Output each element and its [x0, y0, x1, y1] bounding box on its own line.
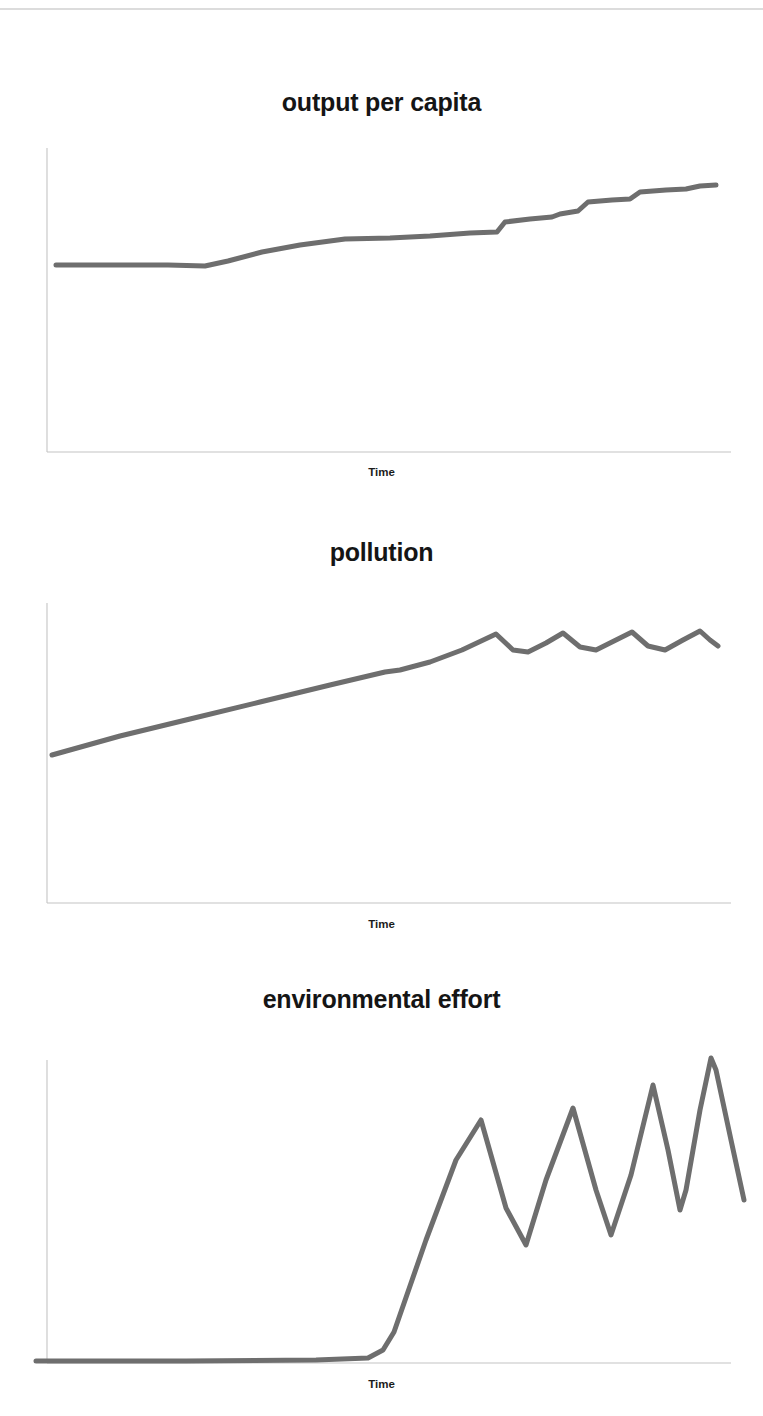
x-axis-label-pollution: Time	[0, 918, 763, 930]
chart-svg-pollution	[0, 500, 763, 960]
plot-area-output-per-capita	[0, 0, 763, 500]
chart-panel-pollution: pollution Time	[0, 500, 763, 960]
chart-svg-environmental-effort	[0, 960, 763, 1416]
series-line-pollution	[52, 631, 718, 755]
chart-panel-output-per-capita: output per capita Time	[0, 0, 763, 500]
chart-svg-output-per-capita	[0, 0, 763, 500]
plot-area-environmental-effort	[0, 960, 763, 1416]
chart-panel-environmental-effort: environmental effort Time	[0, 960, 763, 1416]
plot-area-pollution	[0, 500, 763, 960]
x-axis-label-environmental-effort: Time	[0, 1378, 763, 1390]
x-axis-label-output-per-capita: Time	[0, 466, 763, 478]
series-line-environmental-effort	[36, 1058, 744, 1361]
series-line-output-per-capita	[56, 185, 716, 266]
chart-page: output per capita Time pollution	[0, 0, 763, 1416]
